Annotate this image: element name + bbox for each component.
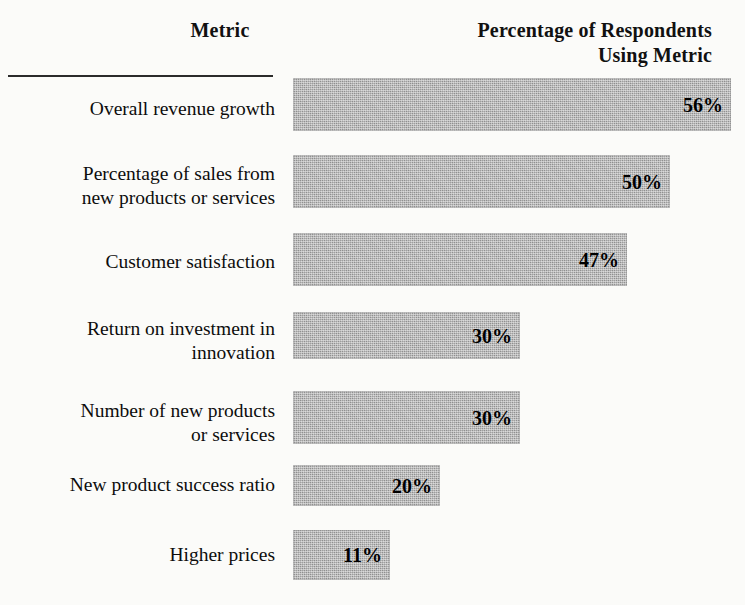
bar-value-label: 30% xyxy=(472,324,512,347)
bar: 20% xyxy=(293,465,440,506)
bar-fill: 30% xyxy=(293,391,520,444)
bar: 56% xyxy=(293,78,731,131)
bar-chart-figure: Metric Percentage of Respondents Using M… xyxy=(0,0,745,605)
bar-value-label: 56% xyxy=(683,93,723,116)
bar-category-label-line-2: or services xyxy=(0,423,275,447)
bar-category-label: Return on investment ininnovation xyxy=(0,317,275,365)
bar: 30% xyxy=(293,391,520,444)
bar: 50% xyxy=(293,155,670,208)
bar-value-label: 47% xyxy=(579,248,619,271)
bar-category-label: Customer satisfaction xyxy=(0,250,275,274)
bar-value-label: 20% xyxy=(392,474,432,497)
bar: 30% xyxy=(293,312,520,359)
bar-category-label-line-1: New product success ratio xyxy=(0,473,275,497)
bar-category-label: Overall revenue growth xyxy=(0,97,275,121)
bar-fill: 30% xyxy=(293,312,520,359)
bar-category-label-line-1: Return on investment in xyxy=(0,317,275,341)
bar-value-label: 30% xyxy=(472,406,512,429)
bar: 47% xyxy=(293,233,627,286)
bar-fill: 11% xyxy=(293,530,390,580)
bar-category-label-line-1: Higher prices xyxy=(0,543,275,567)
bar-fill: 56% xyxy=(293,78,731,131)
bar-category-label-line-2: innovation xyxy=(0,341,275,365)
bar-fill: 50% xyxy=(293,155,670,208)
chart-plot-area: Overall revenue growth56%Percentage of s… xyxy=(0,0,745,605)
bar-fill: 20% xyxy=(293,465,440,506)
bar-fill: 47% xyxy=(293,233,627,286)
bar-category-label-line-1: Customer satisfaction xyxy=(0,250,275,274)
bar-category-label: Number of new productsor services xyxy=(0,399,275,447)
bar-value-label: 11% xyxy=(343,544,382,567)
bar-value-label: 50% xyxy=(622,170,662,193)
bar-category-label: Percentage of sales fromnew products or … xyxy=(0,162,275,210)
bar: 11% xyxy=(293,530,390,580)
bar-category-label-line-2: new products or services xyxy=(0,186,275,210)
bar-category-label-line-1: Overall revenue growth xyxy=(0,97,275,121)
bar-category-label-line-1: Number of new products xyxy=(0,399,275,423)
bar-category-label-line-1: Percentage of sales from xyxy=(0,162,275,186)
bar-category-label: Higher prices xyxy=(0,543,275,567)
bar-category-label: New product success ratio xyxy=(0,473,275,497)
